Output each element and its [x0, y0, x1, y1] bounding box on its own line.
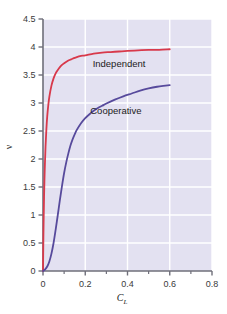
- y-tick-label: 4.5: [23, 14, 36, 24]
- y-tick-label: 4: [30, 42, 35, 52]
- y-tick-label: 0: [30, 266, 35, 276]
- series-label-cooperative: Cooperative: [90, 105, 141, 116]
- x-tick-label: 0.6: [163, 279, 176, 289]
- y-tick-label: 2: [30, 154, 35, 164]
- binding-isotherm-chart: 00.511.522.533.544.5 00.20.40.60.8 Indep…: [0, 0, 227, 314]
- x-tick-label: 0.8: [206, 279, 219, 289]
- x-tick-label: 0.4: [121, 279, 134, 289]
- x-tick-label: 0: [40, 279, 45, 289]
- y-tick-label: 3: [30, 98, 35, 108]
- y-axis-title: ν: [3, 144, 14, 149]
- y-tick-label: 1: [30, 210, 35, 220]
- y-tick-label: 1.5: [23, 182, 36, 192]
- y-tick-label: 0.5: [23, 238, 36, 248]
- series-label-independent: Independent: [93, 58, 146, 69]
- y-tick-label: 2.5: [23, 126, 36, 136]
- x-axis-title-subscript: L: [122, 298, 127, 306]
- x-tick-label: 0.2: [79, 279, 92, 289]
- y-tick-label: 3.5: [23, 70, 36, 80]
- chart-figure: 00.511.522.533.544.5 00.20.40.60.8 Indep…: [0, 0, 227, 314]
